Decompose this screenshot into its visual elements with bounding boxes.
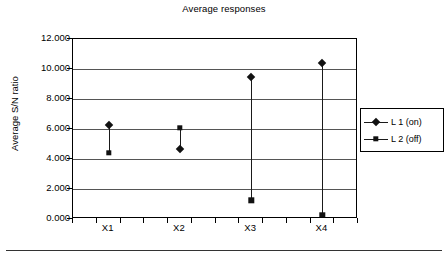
plot-area xyxy=(72,38,357,218)
x-axis-tick-label: X4 xyxy=(301,222,341,233)
square-marker-icon xyxy=(373,136,378,141)
diamond-marker-icon xyxy=(318,59,326,67)
y-axis-tick-label: 6.000 xyxy=(10,122,70,133)
legend-label: L 2 (off) xyxy=(391,134,422,144)
gridline xyxy=(73,189,356,190)
y-axis-tick-label: 4.000 xyxy=(10,152,70,163)
legend-item: L 2 (off) xyxy=(364,130,440,147)
legend-item: L 1 (on) xyxy=(364,113,440,130)
series-connector-line xyxy=(322,63,323,215)
x-axis-tick-label: X1 xyxy=(88,222,128,233)
diamond-marker-icon xyxy=(176,145,184,153)
square-marker-icon xyxy=(177,125,182,130)
diamond-marker-icon xyxy=(247,73,255,81)
x-axis-tick-mark xyxy=(357,218,358,223)
legend-label: L 1 (on) xyxy=(391,117,422,127)
gridline xyxy=(73,69,356,70)
y-axis-tick-label: 0.000 xyxy=(10,212,70,223)
gridline xyxy=(73,99,356,100)
y-axis-tick-label: 2.000 xyxy=(10,182,70,193)
y-axis-tick-label: 10.000 xyxy=(10,62,70,73)
legend-key xyxy=(364,117,388,127)
x-axis-tick-mark xyxy=(215,218,216,223)
square-marker-icon xyxy=(320,212,325,217)
x-axis-tick-label: X3 xyxy=(230,222,270,233)
chart-title: Average responses xyxy=(0,3,448,14)
x-axis-tick-mark xyxy=(143,218,144,223)
gridline xyxy=(73,159,356,160)
series-connector-line xyxy=(251,77,252,200)
gridline xyxy=(73,129,356,130)
x-axis-tick-label: X2 xyxy=(159,222,199,233)
legend-key xyxy=(364,134,388,144)
x-axis-tick-mark xyxy=(72,218,73,223)
bottom-divider xyxy=(6,250,442,251)
chart-legend: L 1 (on)L 2 (off) xyxy=(360,108,444,152)
x-axis-tick-mark xyxy=(286,218,287,223)
y-axis-tick-label: 12.000 xyxy=(10,32,70,43)
diamond-marker-icon xyxy=(372,117,380,125)
y-axis-tick-label: 8.000 xyxy=(10,92,70,103)
chart-figure: Average responses Average S/N ratio 12.0… xyxy=(0,0,448,259)
square-marker-icon xyxy=(248,198,253,203)
diamond-marker-icon xyxy=(104,120,112,128)
square-marker-icon xyxy=(106,150,111,155)
